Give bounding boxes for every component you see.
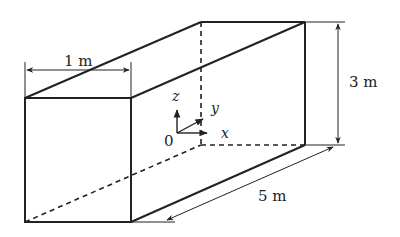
box-diagram: 1 m 3 m 5 m z y x 0	[0, 0, 400, 237]
edge-bottom-right-depth	[131, 145, 305, 222]
origin-label: 0	[164, 132, 174, 150]
hidden-edge-bottom-left-depth	[25, 145, 201, 222]
width-label: 1 m	[64, 52, 93, 70]
y-axis-arrow	[177, 119, 203, 133]
y-axis-label: y	[210, 100, 220, 116]
dimension-height	[305, 22, 345, 145]
length-label: 5 m	[258, 187, 287, 205]
edge-top-left-depth	[25, 22, 201, 98]
dimension-length	[131, 147, 333, 222]
dimension-arrow	[167, 147, 333, 220]
z-axis-label: z	[171, 88, 180, 104]
x-axis-label: x	[221, 125, 229, 141]
edge-top-right-depth	[131, 22, 305, 98]
coordinate-axes	[177, 110, 207, 133]
front-face	[25, 98, 131, 222]
height-label: 3 m	[349, 73, 378, 91]
